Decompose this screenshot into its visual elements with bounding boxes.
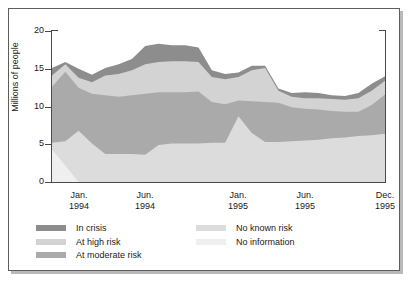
area-series-group (52, 31, 385, 182)
y-tick-0 (45, 182, 52, 183)
x-tick-year: 1994 (49, 201, 109, 212)
legend-label: No information (236, 236, 295, 248)
legend-swatch-in-crisis (36, 225, 66, 231)
x-tick-year: 1995 (355, 201, 411, 212)
x-tick-month: Jan. (49, 190, 109, 201)
legend-swatch-at-moderate-risk (36, 252, 66, 258)
legend-label: At moderate risk (76, 249, 142, 261)
x-tick-month: Dec. (355, 190, 411, 201)
figure: Millions of people 05101520 In crisisAt … (0, 0, 411, 284)
chart-legend: In crisisAt high riskAt moderate riskNo … (36, 222, 356, 264)
y-tick-label-20: 20 (2, 26, 44, 35)
x-tick-year: 1994 (115, 201, 175, 212)
y-tick-label-0: 0 (2, 177, 44, 186)
legend-swatch-no-information (196, 239, 226, 245)
x-tick-month: Jun. (115, 190, 175, 201)
y-tick-label-5: 5 (2, 139, 44, 148)
x-tick-month: Jan. (208, 190, 268, 201)
stacked-area-plot (52, 31, 385, 182)
y-tick-10 (45, 107, 52, 108)
legend-swatch-no-known-risk (196, 225, 226, 231)
x-tick-label-Dec-1995: Dec.1995 (355, 190, 411, 211)
y-tick-label-15: 15 (2, 64, 44, 73)
y-tick-15 (45, 69, 52, 70)
x-tick-label-Jun-1995: Jun.1995 (275, 190, 335, 211)
legend-label: No known risk (236, 222, 293, 234)
legend-label: In crisis (76, 222, 107, 234)
x-tick-label-Jan-1994: Jan.1994 (49, 190, 109, 211)
y-tick-label-10: 10 (2, 102, 44, 111)
x-tick-label-Jun-1994: Jun.1994 (115, 190, 175, 211)
x-tick-year: 1995 (275, 201, 335, 212)
x-axis-line (51, 182, 386, 183)
y-tick-5 (45, 144, 52, 145)
x-tick-month: Jun. (275, 190, 335, 201)
x-tick-year: 1995 (208, 201, 268, 212)
legend-swatch-at-high-risk (36, 239, 66, 245)
legend-label: At high risk (76, 236, 121, 248)
right-axis-line (385, 30, 386, 183)
x-tick-label-Jan-1995: Jan.1995 (208, 190, 268, 211)
y-tick-20 (45, 31, 52, 32)
